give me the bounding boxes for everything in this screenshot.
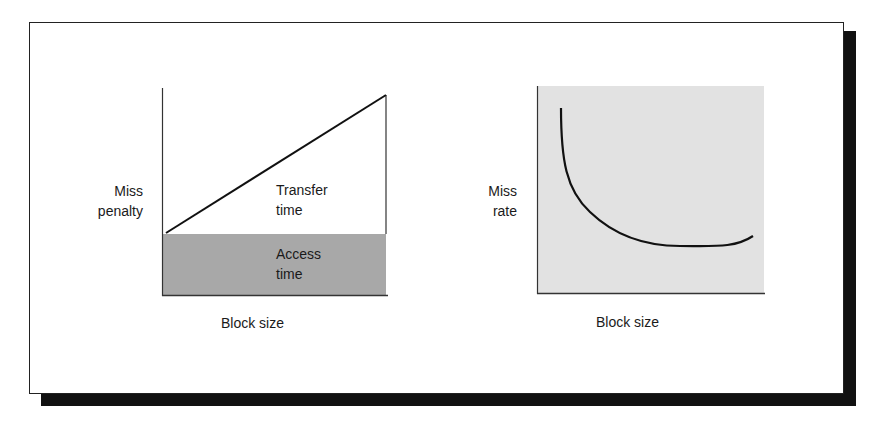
access-time-label: Access time [276, 244, 321, 284]
miss-penalty-chart [162, 88, 388, 296]
ylabel-miss-rate: Miss rate [470, 181, 517, 221]
label-line-1: Access [276, 244, 321, 264]
ylabel-line-2: penalty [90, 201, 143, 221]
label-line-2: time [276, 200, 328, 220]
xlabel-right: Block size [596, 312, 659, 332]
label-line-2: time [276, 264, 321, 284]
plot-background [537, 86, 764, 293]
xlabel-left: Block size [221, 313, 284, 333]
label-line-1: Transfer [276, 180, 328, 200]
miss-rate-chart [537, 86, 765, 294]
ylabel-miss-penalty: Miss penalty [90, 181, 143, 221]
ylabel-line-1: Miss [90, 181, 143, 201]
transfer-time-label: Transfer time [276, 180, 328, 220]
access-time-region [163, 234, 386, 295]
ylabel-line-2: rate [470, 201, 517, 221]
ylabel-line-1: Miss [470, 181, 517, 201]
